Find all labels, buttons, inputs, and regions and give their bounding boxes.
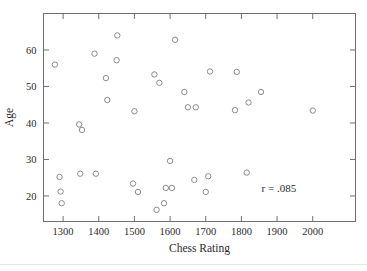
x-tick-label: 1300 [53, 226, 74, 237]
data-point [132, 109, 137, 114]
data-point [185, 105, 190, 110]
x-tick-label: 2000 [302, 226, 323, 237]
y-tick-label: 20 [26, 191, 37, 202]
caption-divider [0, 264, 367, 265]
y-axis-title: Age [3, 108, 16, 127]
data-point [130, 181, 135, 186]
data-point [167, 158, 172, 163]
data-point [193, 105, 198, 110]
y-tick-label: 40 [26, 118, 37, 129]
x-tick-label: 1700 [195, 226, 216, 237]
data-point [258, 89, 263, 94]
data-point [203, 189, 208, 194]
data-point [115, 33, 120, 38]
data-point [154, 207, 159, 212]
data-point [207, 69, 212, 74]
data-point [163, 185, 168, 190]
data-point [93, 171, 98, 176]
data-point [92, 51, 97, 56]
data-point [58, 189, 63, 194]
x-axis-title: Chess Rating [169, 242, 230, 255]
data-point [182, 89, 187, 94]
scatterplot-figure: 1300140015001600170018001900200020304050… [0, 0, 367, 271]
data-point [135, 189, 140, 194]
data-point [161, 201, 166, 206]
plot-frame [44, 14, 356, 222]
data-point [172, 37, 177, 42]
data-point [52, 62, 57, 67]
plot-canvas: 1300140015001600170018001900200020304050… [0, 0, 367, 271]
data-point [105, 97, 110, 102]
data-point [169, 185, 174, 190]
data-point [103, 75, 108, 80]
data-point [232, 108, 237, 113]
data-point [152, 72, 157, 77]
x-tick-label: 1900 [267, 226, 288, 237]
y-tick-label: 60 [26, 45, 37, 56]
data-point [246, 100, 251, 105]
data-point [192, 177, 197, 182]
data-point [59, 201, 64, 206]
data-point [157, 80, 162, 85]
data-point [78, 171, 83, 176]
data-point [234, 69, 239, 74]
data-point [114, 58, 119, 63]
correlation-annotation: r = .085 [262, 182, 297, 194]
data-point [57, 174, 62, 179]
data-point [76, 122, 81, 127]
x-tick-label: 1400 [88, 226, 109, 237]
x-tick-label: 1600 [160, 226, 181, 237]
data-point [79, 127, 84, 132]
x-tick-label: 1500 [124, 226, 145, 237]
x-tick-label: 1800 [231, 226, 252, 237]
data-point [206, 174, 211, 179]
data-point [244, 170, 249, 175]
y-tick-label: 50 [26, 81, 37, 92]
y-tick-label: 30 [26, 154, 37, 165]
data-point [310, 108, 315, 113]
